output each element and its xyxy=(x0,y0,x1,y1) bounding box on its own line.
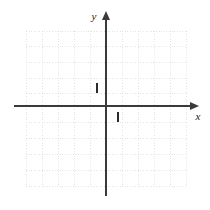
y-axis-arrowhead xyxy=(102,11,110,20)
x-axis-arrowhead xyxy=(190,102,199,110)
y-axis-label: y xyxy=(91,10,97,22)
coordinate-plane-svg: y x xyxy=(0,0,210,210)
axes xyxy=(14,11,199,196)
unit-tick-marks xyxy=(97,83,118,122)
x-axis-label: x xyxy=(195,110,201,122)
coordinate-plane-figure: y x xyxy=(0,0,210,210)
